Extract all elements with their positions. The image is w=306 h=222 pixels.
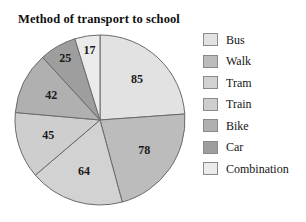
pie-chart-figure: Method of transport to school 8578644542… [0,0,306,222]
legend-item-label: Car [226,141,243,153]
chart-legend: BusWalkTramTrainBikeCarCombination [203,29,303,180]
pie-svg: 85786445422517 [0,30,200,222]
pie-slice-value-label: 17 [84,43,96,57]
legend-item-label: Train [226,98,252,110]
pie-slices [15,35,185,205]
pie-plot-area: 85786445422517 [0,30,200,222]
legend-item-label: Bus [226,34,245,46]
legend-swatch-icon [203,141,218,154]
legend-swatch-icon [203,33,218,46]
pie-slice-value-label: 85 [131,72,143,86]
legend-item-label: Walk [226,55,251,67]
pie-slice-value-label: 45 [42,128,54,142]
pie-slice-value-label: 25 [59,51,71,65]
legend-item-bike[interactable]: Bike [203,115,303,137]
legend-item-label: Tram [226,77,252,89]
legend-item-car[interactable]: Car [203,137,303,159]
legend-item-combination[interactable]: Combination [203,158,303,180]
pie-slice-value-label: 42 [45,88,57,102]
legend-swatch-icon [203,119,218,132]
legend-item-label: Combination [226,163,289,175]
legend-item-tram[interactable]: Tram [203,72,303,94]
pie-slice-value-label: 64 [78,164,90,178]
page-title: Method of transport to school [18,12,180,27]
legend-swatch-icon [203,162,218,175]
legend-item-train[interactable]: Train [203,94,303,116]
legend-swatch-icon [203,55,218,68]
pie-slice-value-label: 78 [138,143,150,157]
legend-item-label: Bike [226,120,249,132]
legend-item-walk[interactable]: Walk [203,51,303,73]
legend-item-bus[interactable]: Bus [203,29,303,51]
legend-swatch-icon [203,76,218,89]
legend-swatch-icon [203,98,218,111]
